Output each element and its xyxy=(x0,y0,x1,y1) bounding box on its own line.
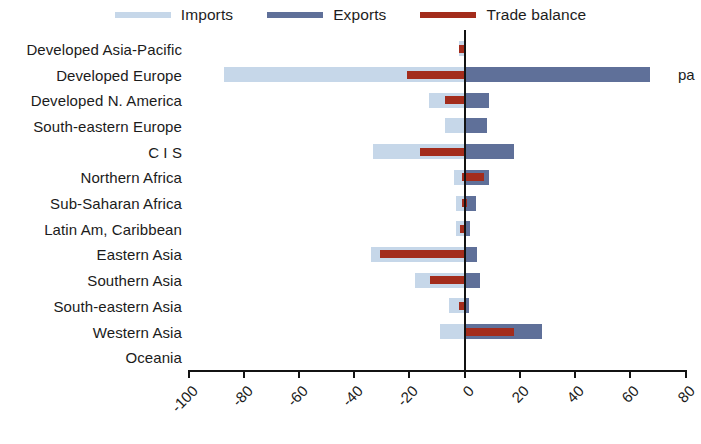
category-label: South-eastern Europe xyxy=(33,117,182,134)
category-label: Developed N. America xyxy=(31,92,182,109)
bar-row: Sub-Saharan Africa xyxy=(0,190,701,216)
bar-trade-balance xyxy=(466,328,514,336)
bar-row: South-eastern Asia xyxy=(0,293,701,319)
category-label: C I S xyxy=(148,143,182,160)
bar-row: C I S xyxy=(0,139,701,165)
x-tick-label: 0 xyxy=(432,382,477,427)
legend-item-exports: Exports xyxy=(267,6,386,24)
bar-exports xyxy=(465,67,650,82)
category-label: Latin Am, Caribbean xyxy=(44,220,182,237)
category-label: Northern Africa xyxy=(80,169,182,186)
legend-label-exports: Exports xyxy=(333,6,386,24)
x-tick-label: -40 xyxy=(322,382,367,427)
category-label: Developed Europe xyxy=(56,66,182,83)
category-label: Southern Asia xyxy=(87,272,182,289)
bar-trade-balance xyxy=(445,96,464,104)
right-edge-text: pa xyxy=(678,66,695,83)
bar-row: Southern Asia xyxy=(0,267,701,293)
category-label: Oceania xyxy=(125,349,182,366)
trade-bar-chart: Imports Exports Trade balance Developed … xyxy=(0,0,701,444)
x-axis-line xyxy=(189,370,686,372)
bar-imports xyxy=(445,118,464,133)
legend-swatch-imports xyxy=(115,12,171,18)
x-tick-label: -100 xyxy=(156,382,201,427)
category-label: Western Asia xyxy=(93,323,182,340)
x-axis-tick xyxy=(464,370,466,378)
x-axis-tick xyxy=(574,370,576,378)
legend-item-trade-balance: Trade balance xyxy=(420,6,586,24)
category-label: Developed Asia-Pacific xyxy=(26,40,182,57)
x-tick-label: 20 xyxy=(487,382,532,427)
x-axis-tick xyxy=(408,370,410,378)
bar-exports xyxy=(465,247,477,262)
bar-row: South-eastern Europe xyxy=(0,113,701,139)
x-tick-label: 80 xyxy=(653,382,698,427)
category-label: Sub-Saharan Africa xyxy=(50,195,182,212)
x-axis-tick xyxy=(243,370,245,378)
bar-row: Eastern Asia xyxy=(0,242,701,268)
bar-exports xyxy=(465,273,480,288)
zero-line xyxy=(464,30,466,372)
x-axis-tick xyxy=(519,370,521,378)
bar-trade-balance xyxy=(380,250,464,258)
category-label: South-eastern Asia xyxy=(53,297,182,314)
legend-label-trade-balance: Trade balance xyxy=(486,6,586,24)
x-tick-label: 40 xyxy=(543,382,588,427)
legend-swatch-trade-balance xyxy=(420,12,476,18)
bar-row: Latin Am, Caribbean xyxy=(0,216,701,242)
legend-item-imports: Imports xyxy=(115,6,233,24)
x-axis-tick xyxy=(298,370,300,378)
bar-exports xyxy=(465,93,490,108)
x-tick-label: 60 xyxy=(598,382,643,427)
bar-row: Northern Africa xyxy=(0,165,701,191)
chart-legend: Imports Exports Trade balance xyxy=(0,0,701,30)
x-axis-tick xyxy=(353,370,355,378)
legend-swatch-exports xyxy=(267,12,323,18)
bar-trade-balance xyxy=(430,276,465,284)
bar-row: Developed N. America xyxy=(0,87,701,113)
bar-row: Developed Asia-Pacific xyxy=(0,36,701,62)
bar-row: Oceania xyxy=(0,344,701,370)
bar-exports xyxy=(465,144,515,159)
x-tick-label: -60 xyxy=(266,382,311,427)
bar-exports xyxy=(465,118,487,133)
plot-area: Developed Asia-PacificDeveloped EuropeDe… xyxy=(0,30,701,444)
x-axis-tick xyxy=(685,370,687,378)
bar-imports xyxy=(440,324,465,339)
x-tick-label: -80 xyxy=(211,382,256,427)
x-axis-tick xyxy=(188,370,190,378)
bar-row: Developed Europe xyxy=(0,62,701,88)
bar-trade-balance xyxy=(420,148,464,156)
x-axis-tick xyxy=(629,370,631,378)
bar-row: Western Asia xyxy=(0,319,701,345)
legend-label-imports: Imports xyxy=(181,6,233,24)
x-tick-label: -20 xyxy=(377,382,422,427)
category-label: Eastern Asia xyxy=(97,246,182,263)
bar-trade-balance xyxy=(407,71,465,79)
